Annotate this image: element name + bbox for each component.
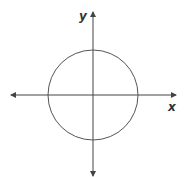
coordinate-diagram: y x xyxy=(0,0,186,177)
y-axis-label: y xyxy=(79,9,88,23)
x-axis-label: x xyxy=(167,100,177,114)
